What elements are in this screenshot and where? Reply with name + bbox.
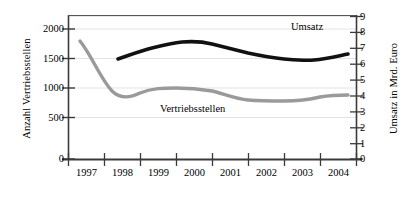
series-label-vertriebsstellen: Vertriebsstellen xyxy=(160,103,225,114)
y-right-tick-8: 8 xyxy=(360,27,390,37)
chart-container: Anzahl Vertriebsstellen Umsatz in Mrd. E… xyxy=(0,0,417,198)
y-right-tick-2: 2 xyxy=(360,123,390,133)
y-left-tick-500: 500 xyxy=(4,113,64,123)
x-axis xyxy=(62,153,362,166)
series-label-umsatz: Umsatz xyxy=(291,21,323,32)
y-right-tick-1: 1 xyxy=(360,139,390,149)
y-right-tick-7: 7 xyxy=(360,43,390,53)
y-right-tick-5: 5 xyxy=(360,75,390,85)
y-left-tick-1000: 1000 xyxy=(4,83,64,93)
series-line-vertriebsstellen xyxy=(80,41,348,101)
y-right-tick-0: 0 xyxy=(360,154,390,164)
y-left-tick-2000: 2000 xyxy=(4,24,64,34)
y-right-tick-3: 3 xyxy=(360,107,390,117)
y-left-tick-1500: 1500 xyxy=(4,54,64,64)
series-line-umsatz xyxy=(118,42,348,61)
x-tick-2004: 2004 xyxy=(314,168,364,178)
y-right-tick-6: 6 xyxy=(360,59,390,69)
y-left-tick-0: 0 xyxy=(4,154,64,164)
y-right-tick-4: 4 xyxy=(360,91,390,101)
y-right-tick-9: 9 xyxy=(360,12,390,22)
